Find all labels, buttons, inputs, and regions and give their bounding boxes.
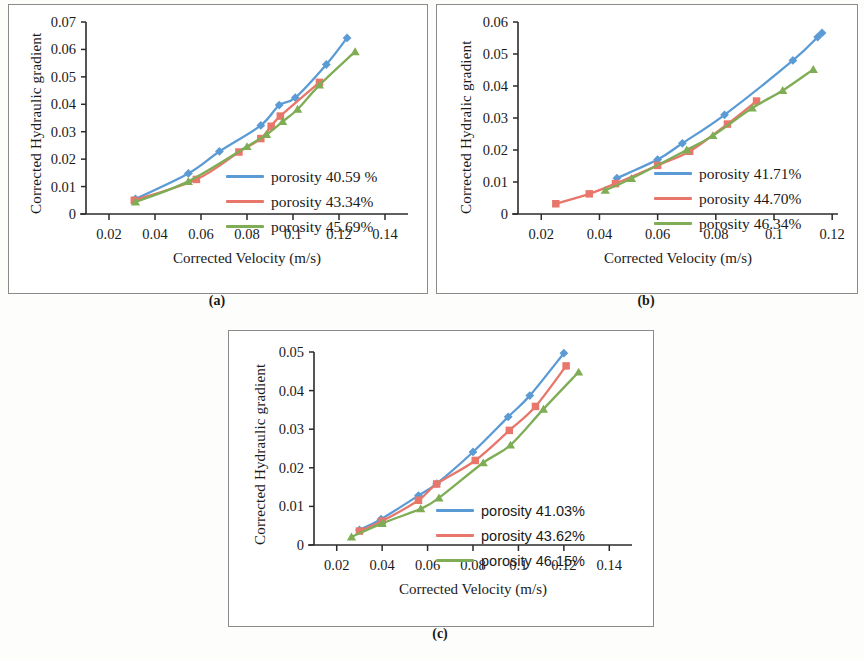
legend-swatch-icon [226, 200, 264, 204]
data-point-marker [350, 47, 359, 55]
x-axis-title: Corrected Velocity (m/s) [86, 250, 408, 267]
x-tick-label: 0.02 [529, 226, 554, 243]
figure-root: 00.010.020.030.040.050.060.070.020.040.0… [0, 0, 864, 660]
data-point-marker [562, 362, 569, 369]
legend-label: porosity 40.59 % [271, 168, 377, 186]
y-tick-label: 0.07 [8, 14, 76, 31]
data-point-marker [532, 403, 539, 410]
data-point-marker [552, 200, 559, 207]
legend-label: porosity 41.71% [699, 165, 801, 183]
legend-swatch-icon [654, 222, 692, 226]
legend-label: porosity 44.70% [699, 190, 801, 208]
legend-item-3[interactable]: porosity 46.15% [436, 548, 585, 573]
x-tick-label: 0.12 [819, 226, 844, 243]
chart-a-plot: 00.010.020.030.040.050.060.070.020.040.0… [8, 4, 426, 292]
data-point-marker [506, 427, 513, 434]
legend-swatch-icon [436, 534, 474, 538]
x-axis-title: Corrected Velocity (m/s) [518, 250, 838, 267]
x-axis-title: Corrected Velocity (m/s) [314, 581, 632, 598]
chart-b-plot: 00.010.020.030.040.050.060.020.040.060.0… [436, 4, 856, 292]
legend-item-1[interactable]: porosity 40.59 % [226, 164, 377, 189]
data-point-marker [472, 457, 479, 464]
data-point-marker [809, 65, 818, 73]
x-tick-label: 0.04 [142, 226, 167, 243]
chart-c-plot: 00.010.020.030.040.050.020.040.060.080.1… [228, 330, 652, 625]
data-point-marker [574, 368, 583, 376]
legend-item-3[interactable]: porosity 45.69% [226, 214, 377, 239]
legend-swatch-icon [436, 559, 474, 563]
chart-panel-a: 00.010.020.030.040.050.060.070.020.040.0… [8, 4, 426, 292]
series-line [617, 33, 822, 178]
series-1 [613, 28, 827, 182]
x-tick-label: 0.06 [188, 226, 213, 243]
x-tick-label: 0.14 [597, 557, 622, 574]
legend-label: porosity 43.34% [271, 193, 373, 211]
chart-legend: porosity 41.03%porosity 43.62%porosity 4… [436, 498, 585, 573]
legend-label: porosity 43.62% [481, 528, 585, 544]
legend-item-2[interactable]: porosity 43.34% [226, 189, 377, 214]
panel-b-caption: (b) [436, 293, 856, 309]
chart-panel-b: 00.010.020.030.040.050.060.020.040.060.0… [436, 4, 856, 292]
data-point-marker [586, 190, 593, 197]
panel-c-caption: (c) [228, 626, 652, 642]
y-axis-title: Corrected Hydraulic gradient [28, 33, 45, 214]
y-axis-title: Corrected Hydraulic gradient [252, 364, 269, 545]
y-tick-label: 0.06 [436, 14, 508, 31]
y-axis-title: Corrected Hydralic gradient [458, 40, 475, 214]
x-tick-label: 0.04 [369, 557, 394, 574]
x-tick-label: 0.02 [324, 557, 349, 574]
x-tick-label: 0.04 [587, 226, 612, 243]
legend-item-1[interactable]: porosity 41.03% [436, 498, 585, 523]
legend-label: porosity 46.34% [699, 215, 801, 233]
legend-item-2[interactable]: porosity 43.62% [436, 523, 585, 548]
chart-legend: porosity 41.71%porosity 44.70%porosity 4… [654, 161, 801, 236]
legend-item-1[interactable]: porosity 41.71% [654, 161, 801, 186]
panel-a-caption: (a) [8, 293, 426, 309]
chart-legend: porosity 40.59 %porosity 43.34%porosity … [226, 164, 377, 239]
legend-item-3[interactable]: porosity 46.34% [654, 211, 801, 236]
chart-panel-c: 00.010.020.030.040.050.020.040.060.080.1… [228, 330, 652, 625]
data-point-marker [415, 496, 422, 503]
legend-label: porosity 45.69% [271, 218, 373, 236]
legend-label: porosity 41.03% [481, 503, 585, 519]
legend-swatch-icon [654, 172, 692, 176]
x-tick-label: 0.02 [96, 226, 121, 243]
legend-swatch-icon [654, 197, 692, 201]
legend-swatch-icon [436, 509, 474, 513]
legend-swatch-icon [226, 175, 264, 179]
legend-item-2[interactable]: porosity 44.70% [654, 186, 801, 211]
data-point-marker [433, 480, 440, 487]
legend-swatch-icon [226, 225, 264, 229]
y-tick-label: 0.05 [228, 344, 304, 361]
legend-label: porosity 46.15% [481, 553, 585, 569]
